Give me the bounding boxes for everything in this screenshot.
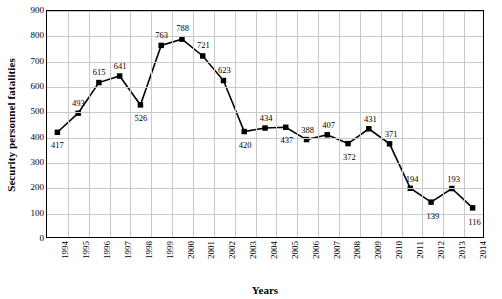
gridline-vertical <box>297 11 298 237</box>
data-point-marker <box>366 126 371 131</box>
gridline-horizontal <box>47 138 483 139</box>
x-tick-label: 2011 <box>415 241 425 259</box>
data-point-label: 420 <box>239 140 252 150</box>
x-tick-label: 1995 <box>81 241 91 259</box>
gridline-vertical <box>151 11 152 237</box>
gridline-horizontal <box>47 163 483 164</box>
x-tick-label: 2005 <box>290 241 300 259</box>
gridline-vertical <box>256 11 257 237</box>
gridline-vertical <box>130 11 131 237</box>
gridline-horizontal <box>47 214 483 215</box>
gridline-vertical <box>110 11 111 237</box>
gridline-vertical <box>464 11 465 237</box>
x-tick-label: 2004 <box>269 241 279 259</box>
data-point-label: 417 <box>51 140 64 150</box>
x-tick-label: 2009 <box>373 241 383 259</box>
chart-container: Security personnel fatalities 0100200300… <box>0 0 502 299</box>
data-point-marker <box>428 199 433 204</box>
data-point-label: 493 <box>72 98 85 108</box>
data-point-marker <box>55 130 60 135</box>
data-point-label: 371 <box>385 129 398 139</box>
x-tick-label: 2000 <box>186 241 196 259</box>
data-point-label: 193 <box>447 174 460 184</box>
gridline-horizontal <box>47 11 483 12</box>
x-tick-label: 2007 <box>332 241 342 259</box>
y-tick-label: 100 <box>4 208 44 218</box>
gridline-vertical <box>68 11 69 237</box>
data-point-label: 139 <box>426 211 439 221</box>
data-point-marker <box>138 102 143 107</box>
x-tick-label: 2013 <box>457 241 467 259</box>
gridline-vertical <box>89 11 90 237</box>
gridline-vertical <box>443 11 444 237</box>
y-tick-label: 800 <box>4 30 44 40</box>
gridline-horizontal <box>47 36 483 37</box>
data-point-marker <box>117 73 122 78</box>
data-point-label: 431 <box>364 114 377 124</box>
data-point-marker <box>221 78 226 83</box>
y-tick-label: 0 <box>4 233 44 243</box>
data-point-label: 437 <box>280 135 293 145</box>
data-point-label: 434 <box>260 113 273 123</box>
gridline-vertical <box>318 11 319 237</box>
data-point-label: 407 <box>322 120 335 130</box>
data-point-label: 116 <box>468 217 480 227</box>
x-tick-label: 2001 <box>206 241 216 259</box>
y-tick-label: 600 <box>4 81 44 91</box>
gridline-vertical <box>422 11 423 237</box>
y-axis-tick-labels: 0100200300400500600700800900 <box>0 10 44 238</box>
data-point-label: 372 <box>343 152 356 162</box>
x-tick-label: 1998 <box>144 241 154 259</box>
data-series-line <box>47 11 483 237</box>
x-tick-label: 2003 <box>248 241 258 259</box>
data-point-marker <box>200 53 205 58</box>
gridline-horizontal <box>47 62 483 63</box>
y-tick-label: 400 <box>4 132 44 142</box>
data-point-marker <box>158 43 163 48</box>
gridline-horizontal <box>47 87 483 88</box>
gridline-vertical <box>214 11 215 237</box>
data-point-label: 641 <box>114 61 127 71</box>
x-tick-label: 2010 <box>394 241 404 259</box>
data-point-label: 721 <box>197 40 210 50</box>
data-point-marker <box>470 205 475 210</box>
x-tick-label: 2014 <box>478 241 488 259</box>
y-tick-label: 200 <box>4 182 44 192</box>
data-point-marker <box>387 141 392 146</box>
gridline-vertical <box>339 11 340 237</box>
data-point-label: 388 <box>301 125 314 135</box>
data-point-marker <box>96 80 101 85</box>
data-point-label: 623 <box>218 65 231 75</box>
data-point-marker <box>283 125 288 130</box>
x-tick-label: 2012 <box>436 241 446 259</box>
gridline-vertical <box>381 11 382 237</box>
x-axis-title: Years <box>46 284 484 296</box>
data-point-label: 788 <box>176 23 189 33</box>
y-tick-label: 700 <box>4 56 44 66</box>
x-tick-label: 2006 <box>311 241 321 259</box>
data-point-label: 763 <box>155 30 168 40</box>
data-point-label: 526 <box>134 113 147 123</box>
gridline-vertical <box>235 11 236 237</box>
y-tick-label: 300 <box>4 157 44 167</box>
gridline-vertical <box>402 11 403 237</box>
x-tick-label: 1994 <box>60 241 70 259</box>
plot-area: 4174936156415267637887216234204344373884… <box>46 10 484 238</box>
x-tick-label: 1997 <box>123 241 133 259</box>
x-tick-label: 2008 <box>352 241 362 259</box>
data-point-marker <box>241 129 246 134</box>
x-tick-label: 1999 <box>165 241 175 259</box>
x-tick-label: 2002 <box>227 241 237 259</box>
data-point-label: 615 <box>93 67 106 77</box>
x-tick-label: 1996 <box>102 241 112 259</box>
x-axis-tick-labels: 1994199519961997199819992000200120022003… <box>46 241 484 285</box>
data-point-marker <box>345 141 350 146</box>
y-tick-label: 500 <box>4 106 44 116</box>
gridline-vertical <box>360 11 361 237</box>
y-tick-label: 900 <box>4 5 44 15</box>
data-point-marker <box>262 125 267 130</box>
gridline-vertical <box>276 11 277 237</box>
gridline-horizontal <box>47 188 483 189</box>
data-point-label: 194 <box>406 174 419 184</box>
gridline-vertical <box>172 11 173 237</box>
